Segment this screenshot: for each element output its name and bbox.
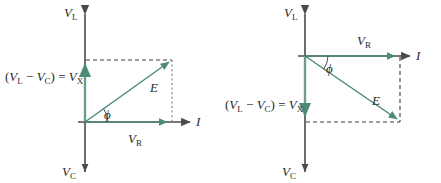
emf-label: E [149,80,158,95]
phase-angle-label: ϕ [326,61,333,76]
emf-phasor [305,56,397,119]
vr-label: VR [128,131,142,148]
vx-equation-label: (VL − VC) = VX [225,97,304,114]
emf-label: E [371,93,380,108]
current-axis-label: I [415,48,421,63]
vx-equation-label: (VL − VC) = VX [5,69,84,86]
v-l-axis-label: VL [284,5,297,22]
vertical-axis-bottom-arrowhead [82,164,89,172]
phase-angle-label: ϕ [104,107,111,122]
phasor-figure: VL VC I VR E ϕ (VL − VC) = VX [0,0,441,183]
capacitive-phasor-diagram: VL VC I VR E ϕ (VL − VC) = VX [220,0,441,183]
v-c-axis-label: VC [282,164,296,181]
v-l-axis-label: VL [64,5,77,22]
inductive-phasor-diagram: VL VC I VR E ϕ (VL − VC) = VX [0,0,220,183]
vertical-axis-bottom-arrowhead [302,164,309,172]
v-c-axis-label: VC [62,164,76,181]
current-axis-label: I [195,114,201,129]
vr-label: VR [357,33,371,50]
